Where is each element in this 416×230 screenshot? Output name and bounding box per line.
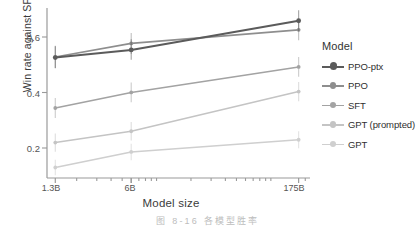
y-axis-ticks [42,37,47,148]
legend-item-label: PPO-ptx [348,61,383,72]
data-point [129,48,134,53]
data-point [296,18,301,23]
legend-item-label: GPT (prompted) [348,119,415,130]
legend-entries: PPO-ptxPPOSFTGPT (prompted)GPT [322,58,416,152]
series-gpt-prompted [53,82,300,152]
data-point [297,65,301,69]
legend-item-label: PPO [348,80,368,91]
legend-item-ppo-ptx[interactable]: PPO-ptx [322,58,416,74]
legend-marker-icon [322,100,344,111]
data-point [129,150,133,154]
x-tick-label: 6B [124,183,135,193]
figure-caption: 图 8-16 各模型胜率 [0,214,416,226]
series-line [55,67,298,108]
data-point [53,106,57,110]
series-line [55,92,298,143]
data-point [53,166,57,170]
data-point [53,141,57,145]
series-sft [53,57,300,118]
legend-item-label: SFT [348,100,366,111]
legend-marker-icon [322,61,344,72]
data-point [297,90,301,94]
legend-item-gpt[interactable]: GPT [322,136,416,152]
legend-item-label: GPT [348,139,367,150]
legend-item-ppo[interactable]: PPO [322,78,416,94]
data-point [53,55,58,60]
legend-item-sft[interactable]: SFT [322,97,416,113]
chart-legend: Model PPO-ptxPPOSFTGPT (prompted)GPT [322,40,416,156]
x-axis-ticks [55,178,305,183]
chart-figure: Win rate against SFT 175B 0.6 0.4 0.2 1.… [0,0,416,230]
x-tick-label: 175B [283,183,304,193]
legend-marker-icon [322,119,344,130]
x-axis-title: Model size [47,197,295,209]
legend-marker-icon [322,139,344,150]
legend-marker-icon [322,80,344,91]
data-point [297,138,301,142]
series-group [53,10,301,175]
series-line [55,140,298,168]
legend-item-gpt-prompted[interactable]: GPT (prompted) [322,117,416,133]
data-point [129,91,133,95]
x-tick-label: 1.3B [42,183,61,193]
data-point [129,129,133,133]
legend-title: Model [322,40,416,52]
